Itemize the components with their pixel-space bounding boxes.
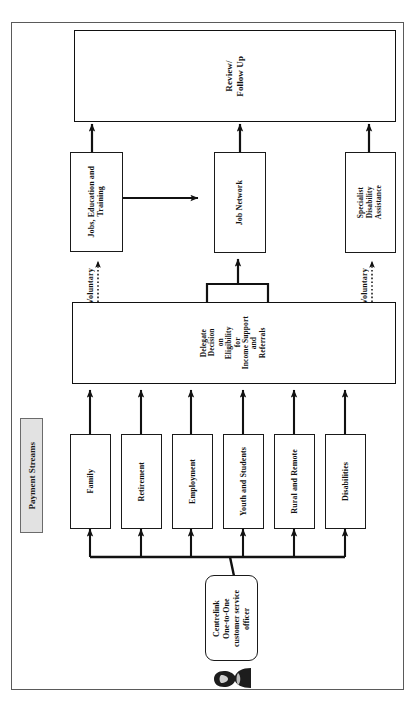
box-payment-stream-disabilities-label: Disabilities [341, 462, 350, 501]
box-centrelink-officer[interactable]: Centrelink One-to-One customer service o… [205, 575, 258, 661]
box-job-network-label: Job Network [235, 180, 244, 225]
box-payment-stream-disabilities[interactable]: Disabilities [325, 434, 366, 529]
box-payment-stream-youth-and-students-label: Youth and Students [239, 447, 248, 516]
box-delegate-decision[interactable]: Delegate Decision on Eligibility for Inc… [72, 302, 396, 384]
box-payment-stream-youth-and-students[interactable]: Youth and Students [223, 434, 264, 529]
box-payment-stream-family[interactable]: Family [70, 434, 111, 529]
box-specialist-disability-assistance-label: Specialist Disability Assistance [357, 185, 384, 219]
box-payment-stream-family-label: Family [86, 469, 95, 494]
diagram-canvas: Review/ Follow Up Jobs, Education and Tr… [0, 0, 416, 705]
box-jobs-education-training[interactable]: Jobs, Education and Training [70, 152, 123, 252]
box-review-follow-up[interactable]: Review/ Follow Up [74, 30, 396, 122]
box-payment-stream-employment[interactable]: Employment [172, 434, 213, 529]
edge-label-voluntary-left: Voluntary [86, 268, 95, 304]
legend-payment-streams: Payment Streams [20, 418, 43, 533]
box-delegate-decision-label: Delegate Decision on Eligibility for Inc… [200, 316, 267, 369]
box-specialist-disability-assistance[interactable]: Specialist Disability Assistance [345, 152, 396, 253]
box-job-network[interactable]: Job Network [214, 152, 266, 253]
box-payment-stream-rural-and-remote-label: Rural and Remote [290, 449, 299, 514]
edge-label-voluntary-right: Voluntary [360, 268, 369, 304]
box-review-follow-up-label: Review/ Follow Up [224, 56, 245, 97]
box-centrelink-officer-label: Centrelink One-to-One customer service o… [212, 590, 252, 647]
box-jobs-education-training-label: Jobs, Education and Training [87, 166, 106, 237]
box-payment-stream-employment-label: Employment [188, 459, 197, 504]
box-payment-stream-rural-and-remote[interactable]: Rural and Remote [274, 434, 315, 529]
person-silhouette-icon [204, 661, 260, 701]
box-payment-stream-retirement-label: Retirement [137, 462, 146, 502]
legend-payment-streams-label: Payment Streams [27, 442, 37, 510]
box-payment-stream-retirement[interactable]: Retirement [121, 434, 162, 529]
